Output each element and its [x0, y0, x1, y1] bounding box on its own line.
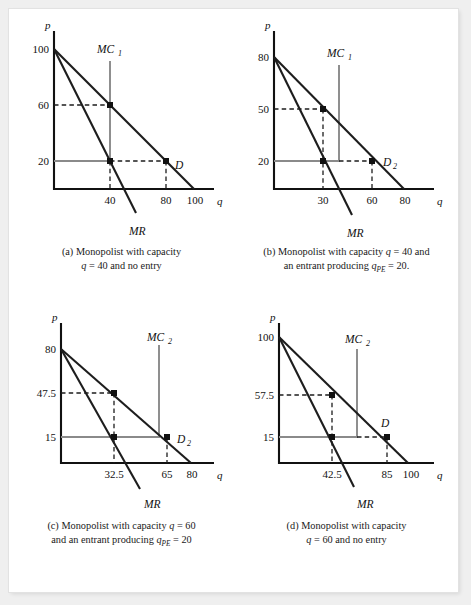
x-tick-d-2: 100 — [403, 468, 420, 480]
mc-sublabel-c: 2 — [168, 337, 172, 346]
x-tick-b-0: 30 — [318, 194, 330, 206]
mc-sublabel-d: 2 — [366, 339, 370, 348]
demand-curve-d — [279, 337, 408, 463]
x-tick-d-0: 42.5 — [322, 468, 342, 480]
demand-sublabel-c: 2 — [187, 439, 191, 448]
point-c-demand-price — [164, 434, 170, 440]
caption-d: (d) Monopolist with capacity q = 60 and … — [234, 519, 459, 546]
axes-c — [61, 323, 214, 463]
panel-d: p q 100 57.5 15 42.5 85 100 — [234, 301, 459, 593]
point-b-demand-quantity — [320, 106, 326, 112]
x-tick-c-0: 32.5 — [104, 468, 124, 480]
y-tick-b-0: 80 — [258, 51, 270, 63]
mr-curve-c — [61, 349, 140, 489]
caption-b-l1-post: = 40 and — [391, 246, 430, 257]
y-tick-a-2: 20 — [38, 155, 50, 167]
demand-curve-c — [61, 349, 191, 463]
point-c-mr-mc — [111, 434, 117, 440]
mr-curve-d — [279, 337, 354, 487]
caption-b-line2: an entrant producing qPE = 20. — [234, 259, 459, 277]
demand-label-b: D — [382, 156, 392, 168]
y-tick-a-0: 100 — [33, 43, 50, 55]
mr-label-b: MR — [346, 227, 364, 239]
demand-label-c: D — [176, 433, 186, 445]
caption-b-l2-post: = 20. — [386, 260, 410, 271]
y-tick-b-2: 20 — [258, 155, 270, 167]
demand-sublabel-b: 2 — [393, 162, 397, 171]
y-tick-a-1: 60 — [38, 99, 50, 111]
caption-a-line2: q = 40 and no entry — [9, 259, 234, 273]
axes-a — [54, 31, 214, 189]
y-tick-d-1: 57.5 — [255, 389, 275, 401]
caption-c: (c) Monopolist with capacity q = 60 and … — [9, 519, 234, 550]
x-tick-d-1: 85 — [382, 468, 394, 480]
caption-c-l2-post: = 20 — [171, 534, 192, 545]
point-d-demand-price — [384, 434, 390, 440]
x-tick-a-0: 40 — [105, 194, 117, 206]
point-a-demand-price — [163, 158, 169, 164]
caption-b: (b) Monopolist with capacity q = 40 and … — [234, 245, 459, 276]
point-c-demand-quantity — [111, 390, 117, 396]
x-tick-b-1: 60 — [367, 194, 379, 206]
mc-label-d: MC — [344, 333, 363, 345]
y-tick-c-1: 47.5 — [37, 387, 57, 399]
y-tick-c-2: 15 — [45, 431, 57, 443]
axes-b — [274, 31, 434, 189]
caption-d-line1: (d) Monopolist with capacity — [234, 519, 459, 533]
caption-c-line1: (c) Monopolist with capacity q = 60 — [9, 519, 234, 533]
point-b-demand-price — [369, 158, 375, 164]
panel-a: p q 100 60 20 40 80 100 — [9, 9, 234, 301]
panel-d-chart: p q 100 57.5 15 42.5 85 100 — [234, 301, 459, 593]
point-d-mr-mc — [329, 434, 335, 440]
x-axis-label-a: q — [217, 195, 223, 207]
mc-label-b: MC — [326, 47, 345, 59]
mr-label-a: MR — [128, 225, 146, 237]
demand-curve-a — [54, 49, 194, 189]
mr-curve-b — [274, 57, 352, 215]
x-tick-c-2: 80 — [187, 468, 199, 480]
demand-label-d: D — [380, 417, 390, 429]
caption-d-line2: q = 60 and no entry — [234, 533, 459, 547]
x-tick-c-1: 65 — [162, 468, 174, 480]
x-axis-label-b: q — [437, 195, 443, 207]
mc-sublabel-a: 1 — [118, 49, 122, 58]
caption-a: (a) Monopolist with capacity q = 40 and … — [9, 245, 234, 272]
y-tick-b-1: 50 — [258, 103, 270, 115]
caption-c-l1-post: = 60 — [174, 520, 195, 531]
y-tick-d-0: 100 — [258, 331, 275, 343]
mr-label-d: MR — [356, 498, 374, 510]
panel-grid: p q 100 60 20 40 80 100 — [9, 9, 458, 592]
caption-c-l1-pre: (c) Monopolist with capacity — [47, 520, 169, 531]
x-axis-label-c: q — [217, 469, 223, 481]
caption-d-line2-rest: = 60 and no entry — [311, 534, 386, 545]
y-axis-label-a: p — [44, 19, 51, 31]
point-a-demand-capacity — [107, 102, 113, 108]
mc-label-c: MC — [146, 331, 165, 343]
caption-c-l2-pre: and an entrant producing — [51, 534, 156, 545]
panel-b: p q 80 50 20 30 60 80 — [234, 9, 459, 301]
caption-b-l2-sub: PE — [377, 265, 386, 274]
y-tick-d-2: 15 — [263, 431, 275, 443]
y-tick-c-0: 80 — [45, 343, 57, 355]
caption-b-l1-pre: (b) Monopolist with capacity — [263, 246, 385, 257]
mc-sublabel-b: 1 — [348, 53, 352, 62]
caption-a-line1: (a) Monopolist with capacity — [9, 245, 234, 259]
x-tick-b-2: 80 — [400, 194, 412, 206]
caption-b-l2-pre: an entrant producing — [284, 260, 372, 271]
caption-b-line1: (b) Monopolist with capacity q = 40 and — [234, 245, 459, 259]
point-d-demand-quantity — [329, 392, 335, 398]
panel-c: p q 80 47.5 15 32.5 65 80 — [9, 301, 234, 593]
y-axis-label-d: p — [269, 311, 276, 323]
demand-label-a: D — [174, 159, 184, 171]
figure-page: p q 100 60 20 40 80 100 — [9, 9, 458, 592]
mr-label-c: MR — [143, 498, 161, 510]
x-axis-label-d: q — [437, 469, 443, 481]
mc-label-a: MC — [96, 43, 115, 55]
caption-c-line2: and an entrant producing qPE = 20 — [9, 533, 234, 551]
point-b-mr-mc — [320, 158, 326, 164]
y-axis-label-b: p — [264, 19, 271, 31]
x-tick-a-1: 80 — [161, 194, 173, 206]
x-tick-a-2: 100 — [187, 194, 204, 206]
caption-c-l2-sub: PE — [162, 539, 171, 548]
caption-a-line2-rest: = 40 and no entry — [86, 260, 161, 271]
